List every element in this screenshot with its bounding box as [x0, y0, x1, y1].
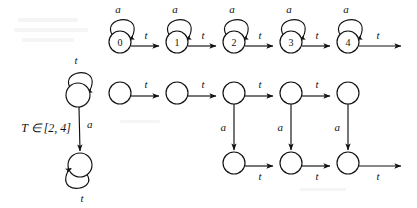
self-loop-label-4: a	[343, 3, 349, 15]
grid-node-U0[interactable]	[109, 82, 131, 104]
state-label-0: 0	[118, 37, 123, 48]
guard-label: T ∈ [2, 4]	[21, 121, 71, 135]
grid-top-label-U2-U3: t	[258, 78, 262, 90]
grid-node-U2[interactable]	[223, 82, 245, 104]
grid-node-D3[interactable]	[280, 152, 302, 174]
grid-top-label-U0-U1: t	[144, 78, 148, 90]
self-loop-label-L0: t	[74, 54, 78, 66]
grid-node-D4[interactable]	[337, 152, 359, 174]
transition-label-3-4: t	[315, 29, 319, 41]
bottom-grid-automaton: t t t t a a a t t t	[109, 78, 401, 182]
self-loop-label-1: a	[172, 3, 178, 15]
diagram-svg: t a T ∈ [2, 4] t a 0 a 1	[0, 0, 417, 208]
transition-edge-L0-L1	[79, 107, 80, 151]
self-loop-label-3: a	[286, 3, 292, 15]
state-label-4: 4	[346, 37, 351, 48]
state-label-3: 3	[289, 37, 294, 48]
self-loop-label-2: a	[229, 3, 235, 15]
grid-bottom-label-D4-open: t	[376, 170, 380, 182]
state-label-2: 2	[232, 37, 237, 48]
figure-canvas: t a T ∈ [2, 4] t a 0 a 1	[0, 0, 417, 208]
state-node-L0[interactable]	[66, 83, 90, 107]
grid-node-U1[interactable]	[166, 82, 188, 104]
left-automaton: t a T ∈ [2, 4] t	[21, 54, 93, 204]
state-node-L1[interactable]	[68, 153, 92, 177]
transition-label-2-3: t	[258, 29, 262, 41]
transition-label-a-L0-L1: a	[87, 118, 93, 130]
grid-vertical-label-U2-D2: a	[221, 121, 227, 133]
state-label-1: 1	[175, 37, 180, 48]
grid-top-label-U3-U4: t	[315, 78, 319, 90]
grid-node-U4[interactable]	[337, 82, 359, 104]
transition-label-1-2: t	[201, 29, 205, 41]
transition-label-0-1: t	[144, 29, 148, 41]
self-loop-label-L1: t	[80, 192, 84, 204]
grid-node-U3[interactable]	[280, 82, 302, 104]
transition-label-4-open: t	[376, 29, 380, 41]
grid-bottom-label-D2-D3: t	[258, 170, 262, 182]
grid-bottom-label-D3-D4: t	[315, 170, 319, 182]
top-chain-automaton: a 0 a 1 a 2 a 3 a 4 t	[109, 3, 401, 53]
grid-vertical-label-U4-D4: a	[335, 121, 341, 133]
grid-node-D2[interactable]	[223, 152, 245, 174]
self-loop-label-0: a	[115, 3, 121, 15]
grid-vertical-label-U3-D3: a	[278, 121, 284, 133]
grid-top-label-U1-U2: t	[201, 78, 205, 90]
